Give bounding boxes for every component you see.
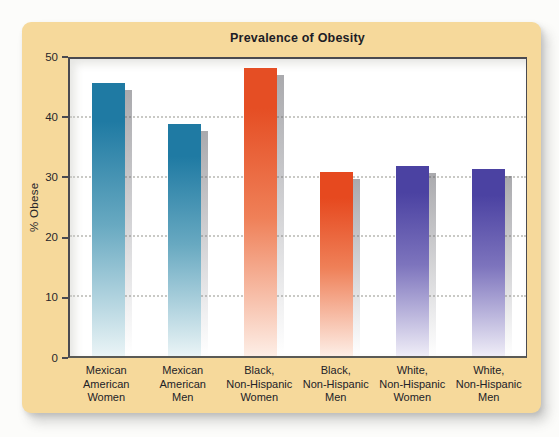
bar-fill (472, 169, 505, 356)
bar-slot (374, 59, 450, 356)
y-tick-mark (62, 237, 68, 239)
bar-fill (320, 172, 353, 356)
category-label-mexican-american-women: Mexican American Women (68, 364, 145, 405)
chart-card: Prevalence of Obesity % Obese (22, 22, 541, 413)
y-tick-label-0: 0 (52, 352, 58, 364)
bar-white-non-hispanic-women (396, 166, 429, 356)
category-label-white-non-hispanic-women: White, Non-Hispanic Women (374, 364, 451, 405)
bar-slot (450, 59, 526, 356)
bar-slot (70, 59, 146, 356)
bar-fill (168, 124, 201, 356)
bar-fill (92, 83, 125, 356)
bar-black-non-hispanic-women (244, 68, 277, 356)
bar-white-non-hispanic-men (472, 169, 505, 356)
bar-mexican-american-men (168, 124, 201, 356)
chart-title: Prevalence of Obesity (68, 31, 527, 45)
y-tick-mark (62, 116, 68, 118)
x-axis-labels: Mexican American Women Mexican American … (68, 364, 527, 405)
y-tick-label-10: 10 (45, 292, 58, 304)
bar-black-non-hispanic-men (320, 172, 353, 356)
y-tick-label-20: 20 (45, 232, 58, 244)
y-tick-mark (62, 176, 68, 178)
bar-slot (146, 59, 222, 356)
category-label-mexican-american-men: Mexican American Men (145, 364, 222, 405)
category-label-black-non-hispanic-women: Black, Non-Hispanic Women (221, 364, 298, 405)
bar-fill (244, 68, 277, 356)
bar-slot (298, 59, 374, 356)
bar-slot (222, 59, 298, 356)
bar-mexican-american-women (92, 83, 125, 356)
y-tick-mark (62, 297, 68, 299)
plot-area (68, 57, 527, 358)
y-tick-mark (62, 357, 68, 359)
y-tick-mark (62, 56, 68, 58)
category-label-black-non-hispanic-men: Black, Non-Hispanic Men (298, 364, 375, 405)
category-label-white-non-hispanic-men: White, Non-Hispanic Men (451, 364, 528, 405)
y-tick-label-40: 40 (45, 111, 58, 123)
bars-row (70, 59, 526, 356)
y-tick-label-30: 30 (45, 172, 58, 184)
y-axis-title: % Obese (26, 57, 42, 358)
y-tick-label-50: 50 (45, 51, 58, 63)
bar-fill (396, 166, 429, 356)
plot-region: % Obese (68, 57, 527, 358)
